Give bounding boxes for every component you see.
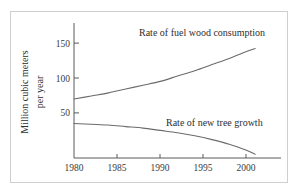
series-line-fuel-wood-consumption bbox=[74, 48, 255, 99]
y-axis-tick-labels: 150 100 50 bbox=[56, 39, 71, 119]
y-tick-label-50: 50 bbox=[61, 108, 71, 118]
x-tick-label-2000: 2000 bbox=[237, 163, 256, 173]
series-label-fuel-wood-consumption: Rate of fuel wood consumption bbox=[139, 27, 265, 38]
x-axis-ticks bbox=[117, 154, 246, 158]
x-tick-label-1980: 1980 bbox=[65, 163, 84, 173]
y-axis-title: Million cubic meters per year bbox=[19, 50, 45, 133]
x-tick-label-1985: 1985 bbox=[108, 163, 127, 173]
x-axis-tick-labels: 1980 1985 1990 1995 2000 bbox=[65, 163, 256, 173]
line-chart-plot: 150 100 50 1980 1985 1990 1995 2000 Rate… bbox=[0, 0, 300, 194]
x-tick-label-1995: 1995 bbox=[194, 163, 213, 173]
chart-figure: 150 100 50 1980 1985 1990 1995 2000 Rate… bbox=[0, 0, 300, 194]
series-label-new-tree-growth: Rate of new tree growth bbox=[166, 117, 263, 128]
series-line-new-tree-growth bbox=[74, 124, 255, 155]
y-tick-label-100: 100 bbox=[56, 74, 71, 84]
y-axis-title-line2: per year bbox=[34, 75, 45, 108]
y-axis-ticks bbox=[74, 43, 79, 113]
x-tick-label-1990: 1990 bbox=[151, 163, 170, 173]
y-tick-label-150: 150 bbox=[56, 39, 71, 49]
y-axis-title-line1: Million cubic meters bbox=[19, 50, 30, 133]
